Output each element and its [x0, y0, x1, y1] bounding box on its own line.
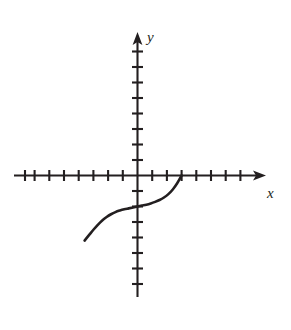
graph-figure: y x: [0, 0, 291, 330]
x-axis-label: x: [267, 186, 274, 201]
y-axis-label: y: [147, 30, 154, 45]
coordinate-plane-svg: [0, 0, 291, 330]
plotted-curve: [85, 176, 182, 241]
